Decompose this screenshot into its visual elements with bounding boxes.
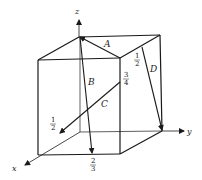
- svg-text:1: 1: [51, 116, 55, 124]
- fraction-b-two-thirds: 2 3: [90, 157, 96, 173]
- vectors: [60, 37, 162, 153]
- svg-text:1: 1: [135, 52, 139, 60]
- vector-d-label: D: [149, 64, 157, 74]
- svg-text:3: 3: [91, 165, 95, 173]
- y-axis-label: y: [186, 127, 192, 136]
- vector-c-label: C: [101, 99, 108, 109]
- vector-c: [60, 82, 120, 133]
- vector-a-label: A: [103, 39, 111, 49]
- svg-text:2: 2: [51, 124, 55, 132]
- vector-b: [80, 37, 92, 153]
- vector-b-label: B: [87, 77, 95, 87]
- x-axis-label: x: [12, 164, 17, 173]
- fraction-c-three-quarters: 3 4: [123, 71, 129, 87]
- fraction-c-half: 1 2: [50, 116, 56, 132]
- x-axis: [25, 132, 80, 165]
- vector-d: [142, 47, 162, 130]
- svg-text:2: 2: [135, 60, 139, 68]
- fraction-d-half: 1 2: [134, 52, 140, 68]
- svg-text:4: 4: [124, 79, 129, 87]
- cube-diagram: z y x A B C D 1 2 3 4 1 2 2 3: [0, 0, 202, 180]
- svg-text:3: 3: [124, 71, 128, 79]
- vector-a: [80, 37, 120, 58]
- svg-text:2: 2: [91, 157, 95, 165]
- z-axis-label: z: [74, 7, 80, 16]
